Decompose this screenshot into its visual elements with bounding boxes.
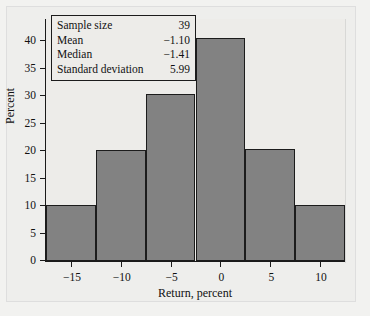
x-axis-tick: 5	[270, 261, 271, 267]
x-axis-tick-label: 5	[268, 272, 274, 284]
plot-right-edge	[345, 19, 346, 263]
x-axis-tick: 10	[320, 261, 321, 267]
stats-row: Standard deviation5.99	[57, 62, 190, 77]
x-axis-tick: −10	[121, 261, 122, 267]
y-axis-tick-label: 30	[25, 90, 37, 102]
y-axis-tick: 25	[40, 123, 46, 124]
stats-label: Median	[57, 47, 92, 62]
y-axis-tick-label: 25	[25, 118, 37, 130]
x-axis-tick-label: −5	[165, 272, 177, 284]
y-axis-tick-label: 5	[30, 228, 36, 240]
y-axis-title: Percent	[4, 88, 16, 124]
y-axis-tick-label: 0	[30, 255, 36, 267]
y-axis-tick-label: 15	[25, 173, 37, 185]
y-axis-tick-label: 35	[25, 63, 37, 75]
stats-value: 5.99	[162, 62, 190, 77]
stats-row: Median−1.41	[57, 47, 190, 62]
y-axis-tick-label: 10	[25, 200, 37, 212]
x-axis-title: Return, percent	[45, 287, 345, 299]
stats-row: Sample size39	[57, 18, 190, 33]
stats-label: Mean	[57, 33, 83, 48]
x-axis-tick: −15	[71, 261, 72, 267]
y-axis-tick: 5	[40, 233, 46, 234]
y-axis-tick: 15	[40, 178, 46, 179]
histogram-bar	[146, 94, 196, 261]
y-axis-tick: 40	[40, 40, 46, 41]
x-axis-tick-label: 10	[315, 272, 327, 284]
stats-row: Mean−1.10	[57, 33, 190, 48]
x-axis-tick-label: −10	[113, 272, 131, 284]
stats-value: −1.41	[155, 47, 190, 62]
x-axis-tick-label: 0	[219, 272, 225, 284]
y-axis-tick-label: 40	[25, 35, 37, 47]
y-axis-tick: 35	[40, 68, 46, 69]
histogram-bar	[46, 205, 96, 261]
x-axis-tick: −5	[171, 261, 172, 267]
histogram-bar	[245, 149, 295, 261]
x-axis-tick-label: −15	[63, 272, 81, 284]
figure: 0510152025303540 −15−10−50510 Percent Re…	[0, 0, 370, 316]
y-axis-tick: 20	[40, 150, 46, 151]
histogram-bar	[96, 150, 146, 261]
histogram-bar	[196, 38, 246, 261]
stats-label: Sample size	[57, 18, 112, 33]
stats-value: 39	[171, 18, 191, 33]
x-axis-tick: 0	[220, 261, 221, 267]
histogram-bar	[295, 205, 345, 261]
stats-summary-box: Sample size39Mean−1.10Median−1.41Standar…	[51, 15, 196, 81]
y-axis-tick: 30	[40, 95, 46, 96]
y-axis-tick: 0	[40, 260, 46, 261]
y-axis-tick-label: 20	[25, 145, 37, 157]
stats-label: Standard deviation	[57, 62, 144, 77]
y-axis-tick: 10	[40, 205, 46, 206]
stats-value: −1.10	[155, 33, 190, 48]
